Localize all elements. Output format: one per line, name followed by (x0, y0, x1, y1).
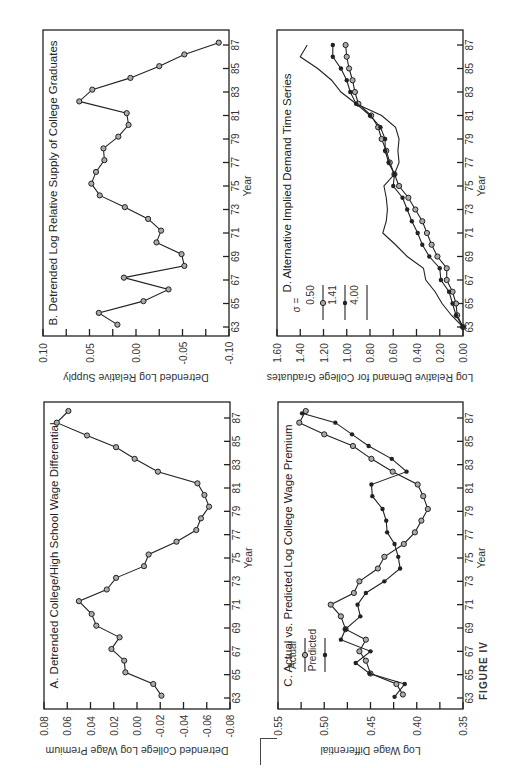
data-point (339, 637, 343, 641)
year-tick-label: 75 (464, 552, 475, 564)
value-tick-label: 0.45 (366, 716, 377, 736)
data-point (390, 469, 395, 474)
year-tick-label: 77 (464, 529, 475, 541)
data-point (354, 661, 358, 665)
data-point (403, 682, 407, 686)
legend-predicted-marker (323, 653, 327, 657)
data-point (358, 614, 362, 618)
value-tick-label: 0.35 (458, 716, 469, 736)
data-point (385, 530, 389, 534)
series-line-actual (299, 411, 428, 695)
data-point (396, 555, 400, 559)
data-point (401, 541, 406, 546)
year-tick-label: 71 (464, 599, 475, 611)
data-point (412, 530, 417, 535)
legend-actual-label: Actual (287, 641, 298, 669)
year-tick-label: 79 (464, 505, 475, 517)
year-tick-label: 73 (464, 575, 475, 587)
value-tick-label: 0.40 (412, 716, 423, 736)
data-point (322, 432, 327, 437)
data-point (369, 482, 373, 486)
data-point (300, 411, 304, 415)
data-point (350, 432, 354, 436)
data-point (375, 566, 380, 571)
data-point (364, 591, 368, 595)
data-point (398, 566, 402, 570)
year-tick-label: 67 (464, 645, 475, 657)
data-point (351, 590, 356, 595)
data-point (404, 469, 408, 473)
chart-c: 0.550.500.450.400.3563656769717375777981… (0, 0, 515, 768)
data-point (338, 614, 343, 619)
data-point (390, 457, 394, 461)
data-point (425, 506, 430, 511)
year-tick-label: 81 (464, 482, 475, 494)
page-corner-box (260, 738, 277, 765)
data-point (367, 671, 371, 675)
y-axis-label: Log Wage Differential (320, 745, 420, 757)
plot-frame (278, 402, 463, 709)
data-point (415, 482, 420, 487)
data-point (384, 518, 388, 522)
data-point (357, 649, 362, 654)
data-point (366, 444, 370, 448)
value-tick-label: 0.55 (273, 716, 284, 736)
data-point (368, 649, 372, 653)
data-point (400, 692, 405, 697)
data-point (333, 420, 337, 424)
data-point (392, 542, 396, 546)
data-point (382, 579, 386, 583)
data-point (382, 554, 387, 559)
value-tick-label: 0.50 (319, 716, 330, 736)
data-point (380, 507, 384, 511)
data-point (363, 637, 368, 642)
year-tick-label: 85 (464, 435, 475, 447)
data-point (369, 456, 374, 461)
legend-predicted-label: Predicted (307, 629, 318, 671)
year-tick-label: 63 (464, 692, 475, 704)
data-point (363, 658, 368, 663)
year-tick-label: 69 (464, 622, 475, 634)
data-point (370, 494, 374, 498)
data-point (355, 602, 359, 606)
data-point (419, 518, 424, 523)
data-point (421, 494, 426, 499)
data-point (328, 602, 333, 607)
year-tick-label: 83 (464, 459, 475, 471)
data-point (392, 695, 396, 699)
data-point (297, 420, 302, 425)
data-point (357, 579, 362, 584)
year-tick-label: 65 (464, 669, 475, 681)
figure-label: FIGURE IV (478, 641, 489, 700)
year-tick-label: 87 (464, 412, 475, 424)
data-point (343, 627, 347, 631)
x-axis-label: Year (475, 547, 487, 569)
data-point (350, 443, 355, 448)
